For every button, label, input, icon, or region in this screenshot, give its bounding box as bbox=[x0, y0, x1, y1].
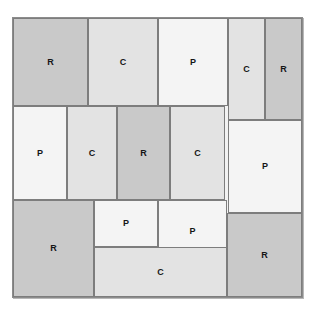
packing-block-r2-c1: P bbox=[13, 106, 67, 200]
packing-block-label: P bbox=[190, 58, 196, 67]
packing-diagram: RCPCRPCRCPRPPCR bbox=[0, 0, 315, 311]
packing-block-r3-c5: R bbox=[227, 213, 302, 297]
packing-block-label: R bbox=[280, 65, 287, 74]
packing-block-r3-c4: C bbox=[94, 247, 227, 297]
packing-block-r1-c5: R bbox=[265, 18, 302, 120]
packing-block-label: P bbox=[189, 227, 195, 236]
packing-block-label: C bbox=[194, 149, 201, 158]
packing-block-r2-c5: P bbox=[228, 120, 302, 213]
packing-block-r2-c2: C bbox=[67, 106, 117, 200]
packing-block-r2-c3: R bbox=[117, 106, 170, 200]
packing-block-r3-c2: P bbox=[94, 200, 158, 247]
packing-block-label: C bbox=[89, 149, 96, 158]
packing-block-r1-c1: R bbox=[13, 18, 88, 106]
packing-block-label: R bbox=[140, 149, 147, 158]
packing-block-r3-c1: R bbox=[13, 200, 94, 297]
packing-block-label: C bbox=[243, 65, 250, 74]
packing-block-label: R bbox=[50, 244, 57, 253]
packing-block-label: P bbox=[262, 162, 268, 171]
packing-block-label: R bbox=[47, 58, 54, 67]
packing-block-r1-c3: P bbox=[158, 18, 228, 106]
packing-block-r1-c2: C bbox=[88, 18, 158, 106]
packing-block-r1-c4: C bbox=[228, 18, 265, 120]
packing-block-label: C bbox=[157, 268, 164, 277]
packing-block-label: C bbox=[120, 58, 127, 67]
packing-block-label: R bbox=[261, 251, 268, 260]
packing-block-label: P bbox=[37, 149, 43, 158]
packing-block-label: P bbox=[123, 219, 129, 228]
packing-block-r2-c4: C bbox=[170, 106, 225, 200]
